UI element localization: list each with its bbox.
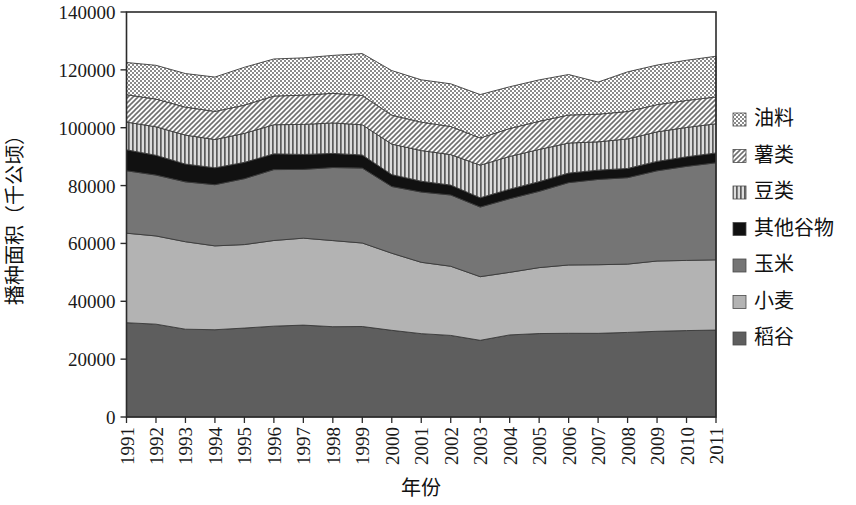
legend-label: 薯类 <box>754 144 794 166</box>
legend-item-稻谷[interactable]: 稻谷 <box>733 326 794 348</box>
x-tick-label: 1992 <box>146 427 167 465</box>
x-tick-label: 2005 <box>529 427 550 465</box>
y-tick-label: 0 <box>106 407 116 428</box>
legend-label: 玉米 <box>754 253 794 275</box>
legend-item-油料[interactable]: 油料 <box>733 107 794 129</box>
legend-label: 小麦 <box>754 290 794 312</box>
x-tick-label: 2009 <box>647 427 668 465</box>
x-axis-ticks: 1991199219931994199519961997199819992000… <box>117 417 728 465</box>
x-tick-label: 2006 <box>559 427 580 465</box>
x-tick-label: 2010 <box>677 427 698 465</box>
chart-container: 020000400006000080000100000120000140000 … <box>0 0 856 505</box>
x-tick-label: 1991 <box>117 427 138 465</box>
y-tick-label: 40000 <box>68 291 116 312</box>
legend-item-其他谷物[interactable]: 其他谷物 <box>733 217 834 239</box>
y-tick-label: 60000 <box>68 233 116 254</box>
legend-swatch-icon <box>733 332 746 345</box>
legend-label: 豆类 <box>754 180 794 202</box>
legend-swatch-icon <box>733 296 746 309</box>
legend-item-薯类[interactable]: 薯类 <box>733 144 794 166</box>
legend-label: 其他谷物 <box>754 217 834 239</box>
x-tick-label: 2004 <box>500 427 521 466</box>
plot-area <box>127 54 717 417</box>
x-tick-label: 2000 <box>382 427 403 465</box>
stacked-area-chart: 020000400006000080000100000120000140000 … <box>0 0 856 505</box>
x-tick-label: 2003 <box>470 427 491 465</box>
x-tick-label: 1996 <box>264 427 285 465</box>
x-tick-label: 1999 <box>352 427 373 465</box>
legend-swatch-icon <box>733 113 746 126</box>
y-axis-title: 播种面积（千公顷） <box>4 125 26 305</box>
legend-swatch-icon <box>733 150 746 163</box>
legend-swatch-icon <box>733 186 746 199</box>
x-axis-title: 年份 <box>401 477 441 499</box>
y-tick-label: 80000 <box>68 176 116 197</box>
legend-label: 稻谷 <box>754 326 794 348</box>
x-tick-label: 1994 <box>205 427 226 466</box>
x-tick-label: 1997 <box>293 427 314 465</box>
legend-item-小麦[interactable]: 小麦 <box>733 290 794 312</box>
chart-legend: 油料薯类豆类其他谷物玉米小麦稻谷 <box>733 107 834 348</box>
x-tick-label: 1995 <box>234 427 255 465</box>
y-tick-label: 20000 <box>68 349 116 370</box>
legend-swatch-icon <box>733 223 746 236</box>
x-tick-label: 1993 <box>175 427 196 465</box>
y-tick-label: 120000 <box>59 60 116 81</box>
x-tick-label: 1998 <box>323 427 344 465</box>
x-tick-label: 2011 <box>706 427 727 464</box>
legend-item-豆类[interactable]: 豆类 <box>733 180 794 202</box>
legend-label: 油料 <box>754 107 794 129</box>
x-tick-label: 2008 <box>618 427 639 465</box>
legend-swatch-icon <box>733 259 746 272</box>
x-tick-label: 2007 <box>588 427 609 465</box>
legend-item-玉米[interactable]: 玉米 <box>733 253 794 275</box>
y-axis-ticks: 020000400006000080000100000120000140000 <box>59 2 127 428</box>
y-tick-label: 140000 <box>59 2 116 23</box>
y-tick-label: 100000 <box>59 118 116 139</box>
series-area-稻谷 <box>127 323 717 417</box>
x-tick-label: 2001 <box>411 427 432 465</box>
x-tick-label: 2002 <box>441 427 462 465</box>
